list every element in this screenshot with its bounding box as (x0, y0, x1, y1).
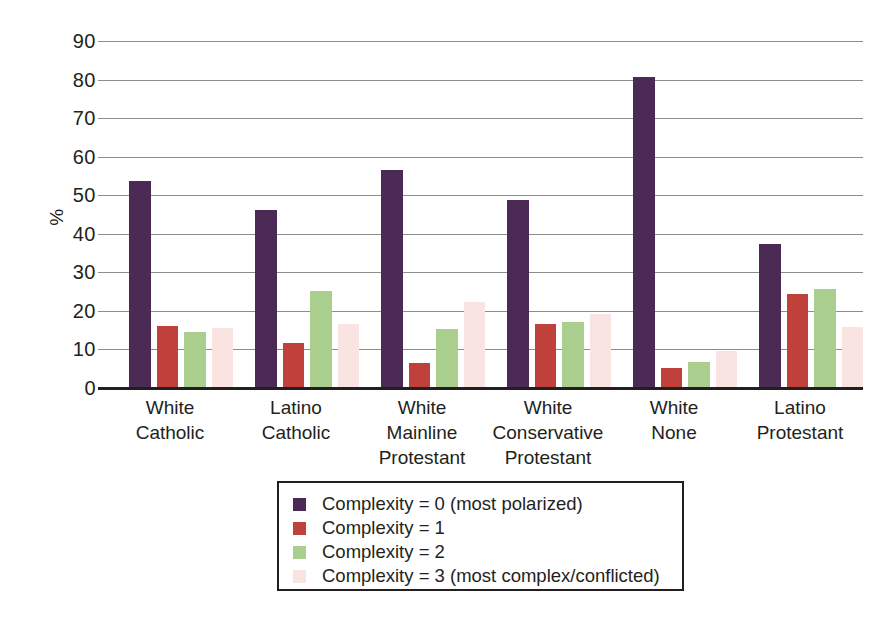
legend-item[interactable]: Complexity = 0 (most polarized) (293, 493, 682, 516)
y-axis-tick-mark (98, 311, 107, 312)
x-axis-tick-labels: WhiteCatholicLatinoCatholicWhite Mainlin… (107, 395, 863, 485)
bar-group (107, 41, 233, 388)
bar[interactable] (716, 351, 738, 388)
legend-swatch (293, 522, 306, 535)
bar-chart: % 0102030405060708090 WhiteCatholicLatin… (0, 0, 896, 624)
bar-group (233, 41, 359, 388)
bar[interactable] (338, 324, 360, 388)
y-axis-label: % (46, 202, 68, 232)
bars-layer (107, 41, 863, 388)
y-axis-tick-mark (98, 80, 107, 81)
x-axis-line (98, 387, 863, 390)
y-axis-tick-label: 30 (73, 262, 96, 282)
bar[interactable] (759, 244, 781, 388)
legend-label: Complexity = 3 (most complex/conflicted) (322, 567, 660, 586)
bar-group (611, 41, 737, 388)
y-axis-tick-label: 70 (73, 108, 96, 128)
x-axis-tick-label: White MainlineProtestant (359, 395, 485, 485)
plot-area: 0102030405060708090 (107, 41, 863, 388)
x-axis-tick-label-line: White (613, 395, 735, 420)
x-axis-tick-label: WhiteCatholic (107, 395, 233, 485)
legend-label: Complexity = 0 (most polarized) (322, 495, 583, 514)
y-axis-tick-mark (98, 41, 107, 42)
legend: Complexity = 0 (most polarized)Complexit… (277, 481, 684, 591)
y-axis-tick-mark (98, 234, 107, 235)
bar[interactable] (507, 200, 529, 388)
legend-swatch (293, 546, 306, 559)
x-axis-tick-label-line: Catholic (235, 420, 357, 445)
legend-label: Complexity = 1 (322, 519, 445, 538)
bar[interactable] (184, 332, 206, 388)
y-axis-tick-label: 40 (73, 224, 96, 244)
y-axis-tick-label: 0 (84, 378, 96, 398)
x-axis-tick-label-line: Latino (739, 395, 861, 420)
x-axis-tick-label-line: None (613, 420, 735, 445)
bar-group (485, 41, 611, 388)
x-axis-tick-label-line: Latino (235, 395, 357, 420)
bar[interactable] (590, 314, 612, 388)
x-axis-tick-label-line: White (109, 395, 231, 420)
y-axis-tick-label: 80 (73, 70, 96, 90)
y-axis-tick-label: 50 (73, 185, 96, 205)
legend-item[interactable]: Complexity = 1 (293, 517, 682, 540)
bar[interactable] (688, 362, 710, 388)
x-axis-tick-label-line: Conservative (487, 420, 609, 445)
legend-items: Complexity = 0 (most polarized)Complexit… (293, 493, 682, 588)
x-axis-tick-label: WhiteConservativeProtestant (485, 395, 611, 485)
y-axis-tick-label: 20 (73, 301, 96, 321)
x-axis-tick-label: LatinoProtestant (737, 395, 863, 485)
y-axis-tick-mark (98, 118, 107, 119)
bar[interactable] (436, 329, 458, 388)
legend-swatch (293, 498, 306, 511)
bar[interactable] (255, 210, 277, 388)
legend-label: Complexity = 2 (322, 543, 445, 562)
legend-item[interactable]: Complexity = 3 (most complex/conflicted) (293, 565, 682, 588)
x-axis-tick-label-line: White (487, 395, 609, 420)
y-axis-tick-label: 60 (73, 147, 96, 167)
bar[interactable] (814, 289, 836, 388)
bar[interactable] (157, 326, 179, 388)
bar[interactable] (409, 363, 431, 388)
bar[interactable] (633, 77, 655, 388)
x-axis-tick-label-line: Protestant (487, 445, 609, 470)
x-axis-tick-label: LatinoCatholic (233, 395, 359, 485)
y-axis-tick-mark (98, 272, 107, 273)
y-axis-tick-label: 90 (73, 31, 96, 51)
bar[interactable] (212, 328, 234, 388)
bar[interactable] (310, 291, 332, 388)
bar[interactable] (381, 170, 403, 388)
bar[interactable] (464, 302, 486, 388)
y-axis-tick-label: 10 (73, 339, 96, 359)
y-axis-tick-mark (98, 157, 107, 158)
x-axis-tick-label-line: White Mainline (361, 395, 483, 445)
legend-swatch (293, 570, 306, 583)
y-axis-tick-mark (98, 195, 107, 196)
bar[interactable] (535, 324, 557, 388)
bar[interactable] (787, 294, 809, 388)
bar[interactable] (562, 322, 584, 388)
bar-group (737, 41, 863, 388)
bar[interactable] (283, 343, 305, 388)
bar[interactable] (661, 368, 683, 388)
bar[interactable] (842, 327, 864, 388)
bar-group (359, 41, 485, 388)
y-axis-tick-mark (98, 349, 107, 350)
x-axis-tick-label: WhiteNone (611, 395, 737, 485)
bar[interactable] (129, 181, 151, 388)
x-axis-tick-label-line: Protestant (739, 420, 861, 445)
x-axis-tick-label-line: Catholic (109, 420, 231, 445)
legend-item[interactable]: Complexity = 2 (293, 541, 682, 564)
x-axis-tick-label-line: Protestant (361, 445, 483, 470)
